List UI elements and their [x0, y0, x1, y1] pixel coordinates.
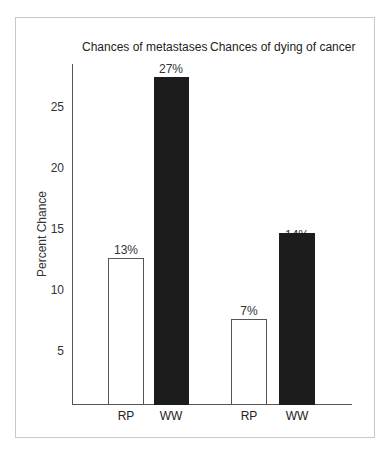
y-tick-20: 20 — [34, 161, 64, 175]
bar-ww-metastases — [154, 77, 189, 405]
bar-value-label: 13% — [106, 243, 146, 257]
category-label-ww: WW — [277, 409, 317, 423]
group-title-dying: Chances of dying of cancer — [210, 40, 355, 54]
bar-rp-dying — [231, 319, 267, 405]
bar-value-label: 27% — [151, 62, 191, 76]
y-tick-5: 5 — [34, 344, 64, 358]
y-tick-10: 10 — [34, 283, 64, 297]
bar-ww-dying — [279, 233, 315, 405]
chart-frame — [15, 17, 375, 438]
group-title-metastases: Chances of metastases — [82, 40, 207, 54]
y-axis-title: Percent Chance — [35, 191, 49, 277]
y-tick-25: 25 — [34, 100, 64, 114]
category-label-rp: RP — [106, 409, 146, 423]
category-label-rp: RP — [229, 409, 269, 423]
y-axis — [72, 64, 73, 404]
bar-value-label: 7% — [229, 304, 269, 318]
bar-rp-metastases — [108, 258, 144, 405]
category-label-ww: WW — [151, 409, 191, 423]
